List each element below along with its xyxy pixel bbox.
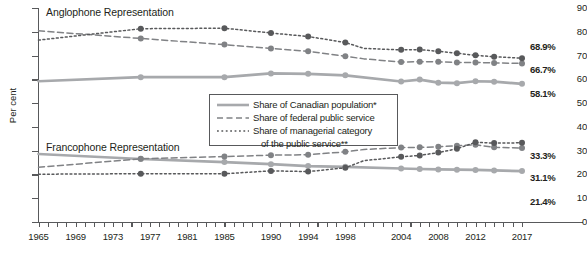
data-point-marker — [268, 168, 274, 174]
data-point-marker — [268, 45, 274, 51]
legend-label-managerial-continuation: of the public service** — [216, 138, 392, 149]
data-point-marker — [398, 59, 404, 65]
data-point-marker — [417, 59, 423, 65]
chart-container: Per cent 9080706050403020100 19651969197… — [0, 0, 587, 253]
legend-label-managerial: Share of managerial category — [250, 125, 372, 137]
data-point-marker — [221, 25, 227, 31]
data-point-marker — [221, 171, 227, 177]
series-line-1 — [39, 31, 523, 64]
data-point-marker — [435, 59, 441, 65]
data-point-marker — [398, 47, 404, 53]
series-line-2 — [39, 28, 523, 58]
data-point-marker — [435, 48, 441, 54]
end-label-anglo-managerial: 68.9% — [530, 41, 555, 52]
data-point-marker — [473, 167, 479, 173]
data-point-marker — [398, 154, 404, 160]
end-label-franco-managerial: 33.3% — [530, 150, 555, 161]
legend-label-federal: Share of federal public service — [250, 112, 375, 124]
data-point-marker — [417, 144, 423, 150]
legend-item-managerial: Share of managerial category — [216, 125, 392, 138]
data-point-marker — [398, 78, 404, 84]
data-point-marker — [417, 77, 423, 83]
data-point-marker — [138, 35, 144, 41]
data-point-marker — [268, 152, 274, 158]
data-point-marker — [519, 145, 525, 151]
data-point-marker — [454, 80, 460, 86]
data-point-marker — [454, 59, 460, 65]
data-point-marker — [268, 30, 274, 36]
data-point-marker — [305, 34, 311, 40]
data-point-marker — [138, 74, 144, 80]
data-point-marker — [491, 54, 497, 60]
data-point-marker — [221, 159, 227, 165]
chart-legend: Share of Canadian population* Share of f… — [209, 94, 398, 146]
data-point-marker — [435, 144, 441, 150]
legend-swatch-dashed — [216, 112, 250, 124]
data-point-marker — [454, 146, 460, 152]
data-point-marker — [342, 53, 348, 59]
data-point-marker — [519, 81, 525, 87]
data-point-marker — [268, 161, 274, 167]
data-point-marker — [519, 60, 525, 66]
data-point-marker — [491, 167, 497, 173]
data-point-marker — [342, 72, 348, 78]
legend-item-federal: Share of federal public service — [216, 112, 392, 125]
data-point-marker — [305, 152, 311, 158]
data-point-marker — [398, 166, 404, 172]
legend-swatch-dotted — [216, 125, 250, 137]
data-point-marker — [398, 145, 404, 151]
end-label-anglo-federal: 66.7% — [530, 64, 555, 75]
data-point-marker — [435, 150, 441, 156]
data-point-marker — [473, 139, 479, 145]
data-point-marker — [473, 78, 479, 84]
legend-swatch-solid — [216, 99, 250, 111]
series-line-3 — [39, 154, 523, 171]
data-point-marker — [221, 42, 227, 48]
data-point-marker — [491, 140, 497, 146]
data-point-marker — [519, 140, 525, 146]
data-point-marker — [473, 59, 479, 65]
data-point-marker — [138, 156, 144, 162]
data-point-marker — [342, 39, 348, 45]
end-label-franco-federal: 31.1% — [530, 172, 555, 183]
data-point-marker — [454, 50, 460, 56]
end-label-anglo-population: 58.1% — [530, 88, 555, 99]
data-point-marker — [221, 154, 227, 160]
data-point-marker — [305, 48, 311, 54]
data-point-marker — [268, 70, 274, 76]
data-point-marker — [342, 165, 348, 171]
legend-label-population: Share of Canadian population* — [250, 99, 377, 111]
data-point-marker — [491, 60, 497, 66]
data-point-marker — [417, 47, 423, 53]
legend-item-population: Share of Canadian population* — [216, 99, 392, 112]
series-line-0 — [39, 73, 523, 83]
data-point-marker — [305, 163, 311, 169]
data-point-marker — [221, 74, 227, 80]
data-point-marker — [435, 80, 441, 86]
data-point-marker — [305, 169, 311, 175]
data-point-marker — [435, 166, 441, 172]
data-point-marker — [417, 152, 423, 158]
data-point-marker — [491, 79, 497, 85]
data-point-marker — [519, 168, 525, 174]
data-point-marker — [138, 26, 144, 32]
end-label-franco-population: 21.4% — [530, 196, 555, 207]
data-point-marker — [519, 55, 525, 61]
data-point-marker — [342, 149, 348, 155]
data-point-marker — [473, 52, 479, 58]
data-point-marker — [138, 171, 144, 177]
data-point-marker — [305, 71, 311, 77]
data-point-marker — [417, 166, 423, 172]
data-point-marker — [454, 167, 460, 173]
